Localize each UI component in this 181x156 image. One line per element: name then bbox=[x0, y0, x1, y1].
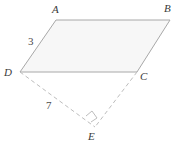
vertex-label-c: C bbox=[140, 71, 147, 82]
edge-CE-dashed bbox=[95, 72, 137, 127]
vertex-label-b: B bbox=[164, 3, 171, 14]
vertex-label-a: A bbox=[52, 4, 59, 15]
right-angle-mark-E bbox=[86, 111, 97, 122]
vertex-label-d: D bbox=[4, 67, 12, 78]
parallelogram-abcd-fill bbox=[20, 20, 170, 72]
length-label-da: 3 bbox=[28, 36, 34, 47]
vertex-label-e: E bbox=[88, 131, 95, 142]
length-label-de: 7 bbox=[46, 100, 52, 111]
edge-DE-dashed bbox=[20, 72, 95, 127]
geometry-figure: A B C D E 3 7 bbox=[0, 0, 181, 156]
